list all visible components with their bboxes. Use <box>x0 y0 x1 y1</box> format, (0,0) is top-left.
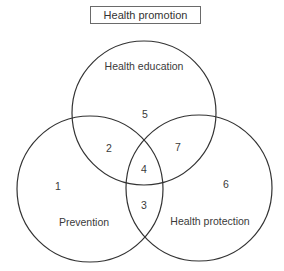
region-1: 1 <box>55 180 61 192</box>
circle-health-protection <box>126 115 272 261</box>
label-health-education: Health education <box>105 60 184 72</box>
circle-prevention <box>17 116 163 262</box>
region-6: 6 <box>223 178 229 190</box>
region-2: 2 <box>106 142 112 154</box>
label-health-protection: Health protection <box>170 215 249 227</box>
region-3: 3 <box>141 199 147 211</box>
region-4: 4 <box>141 163 147 175</box>
region-7: 7 <box>175 141 181 153</box>
region-5: 5 <box>142 108 148 120</box>
label-prevention: Prevention <box>59 216 109 228</box>
venn-diagram <box>0 0 284 271</box>
